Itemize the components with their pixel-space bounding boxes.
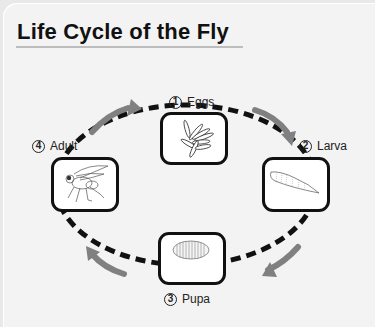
stage-label-pupa: 3 Pupa (164, 292, 210, 306)
stage-box-larva (262, 157, 330, 212)
arrow-pupa-to-adult (92, 254, 124, 274)
stage-name-eggs: Eggs (187, 95, 214, 109)
stage-box-adult (51, 157, 119, 212)
stage-name-adult: Adult (50, 139, 77, 153)
stage-name-pupa: Pupa (182, 292, 210, 306)
adult-fly-icon (54, 160, 116, 209)
pupa-icon (161, 235, 223, 282)
stage-label-adult: 4 Adult (32, 139, 77, 153)
stage-number-3: 3 (164, 293, 177, 306)
larva-icon (265, 160, 327, 209)
stage-label-larva: 2 Larva (299, 139, 347, 153)
stage-name-larva: Larva (317, 139, 347, 153)
stage-number-2: 2 (299, 140, 312, 153)
arrowhead-2 (281, 131, 296, 146)
stage-box-eggs (160, 112, 228, 165)
stage-label-eggs: 1 Eggs (169, 95, 214, 109)
eggs-icon (163, 115, 225, 162)
stage-number-1: 1 (169, 96, 182, 109)
stage-box-pupa (158, 232, 226, 285)
stage-number-4: 4 (32, 140, 45, 153)
arrow-larva-to-pupa (268, 247, 298, 270)
